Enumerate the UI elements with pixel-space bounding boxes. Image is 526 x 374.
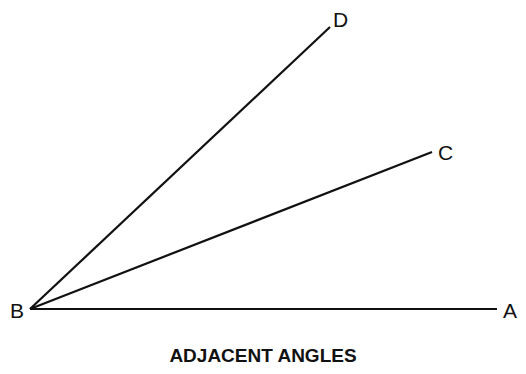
ray-bd: [30, 27, 330, 309]
ray-bc: [30, 152, 432, 309]
adjacent-angles-diagram: B A C D ADJACENT ANGLES: [0, 0, 526, 374]
diagram-title: ADJACENT ANGLES: [169, 345, 356, 366]
label-b: B: [10, 299, 24, 322]
label-a: A: [503, 299, 517, 322]
label-c: C: [438, 141, 453, 164]
label-d: D: [333, 8, 348, 31]
